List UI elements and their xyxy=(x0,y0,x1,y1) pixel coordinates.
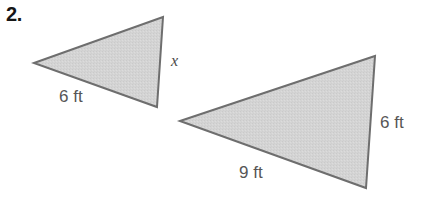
small-triangle-shape xyxy=(34,17,163,107)
problem-number: 2. xyxy=(6,4,22,24)
large-triangle-bottom-length-label: 9 ft xyxy=(239,164,263,181)
large-triangle-shape xyxy=(180,56,375,188)
figure-canvas: 2. 6 ft x 9 ft 6 ft xyxy=(0,0,433,203)
small-triangle-bottom-length-label: 6 ft xyxy=(59,88,83,105)
large-triangle-right-length-label: 6 ft xyxy=(380,114,404,131)
small-triangle-unknown-side-label: x xyxy=(171,53,178,69)
